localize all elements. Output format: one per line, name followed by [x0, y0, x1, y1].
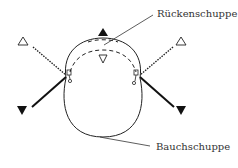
left-solid-line: [32, 77, 66, 107]
right-open-triangle-icon: [176, 37, 186, 45]
top-filled-triangle-icon: [98, 28, 108, 36]
body-outline: [64, 38, 142, 137]
top-open-triangle-icon: [99, 55, 107, 63]
dorsal-scale-label: Rückenschuppe: [157, 8, 237, 19]
right-joint: [132, 70, 138, 85]
scale-diagram: Rückenschuppe Bauchschuppe: [0, 0, 238, 168]
dorsal-scale-dashed-edge: [88, 40, 118, 42]
dorsal-label-leader: [104, 15, 153, 45]
right-dotted-line: [140, 47, 173, 75]
right-filled-triangle-icon: [176, 106, 186, 115]
ventral-label-leader: [100, 137, 150, 146]
left-dotted-line: [33, 47, 66, 75]
ventral-scale-label: Bauchschuppe: [156, 141, 230, 152]
left-filled-triangle-icon: [17, 106, 27, 115]
left-open-triangle-icon: [18, 37, 28, 45]
right-solid-line: [140, 77, 174, 107]
left-joint: [67, 70, 72, 83]
